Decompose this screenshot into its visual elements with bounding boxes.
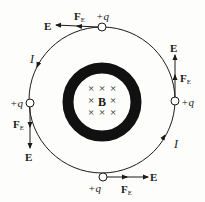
F-label: FE <box>121 183 132 197</box>
E-label: E <box>150 171 157 183</box>
svg-text:×: × <box>110 82 116 94</box>
current-label-I: I <box>173 137 179 151</box>
svg-text:×: × <box>88 106 94 118</box>
F-label: FE <box>74 10 85 24</box>
charge-bottom: +q E FE <box>88 171 157 197</box>
charge-label: +q <box>10 97 23 109</box>
E-label: E <box>25 151 32 163</box>
charge-top: +q E FE <box>44 10 109 32</box>
E-label: E <box>170 42 177 54</box>
svg-text:×: × <box>99 82 105 94</box>
svg-text:×: × <box>110 106 116 118</box>
charge-label: +q <box>181 96 194 108</box>
E-label: E <box>44 20 51 32</box>
svg-text:×: × <box>110 94 116 106</box>
F-label: FE <box>13 118 24 132</box>
induced-field-diagram: ××× ×× ××× B I I +q E FE +q E FE +q E FE <box>0 0 205 202</box>
svg-text:×: × <box>88 94 94 106</box>
current-label-I: I <box>29 52 35 66</box>
charge-right: +q E FE <box>170 42 194 108</box>
charge-label: +q <box>96 10 109 22</box>
charge-label: +q <box>88 182 101 194</box>
charge-left: +q E FE <box>10 97 34 163</box>
F-label: FE <box>180 72 191 86</box>
field-label-B: B <box>98 95 106 109</box>
svg-text:×: × <box>88 82 94 94</box>
